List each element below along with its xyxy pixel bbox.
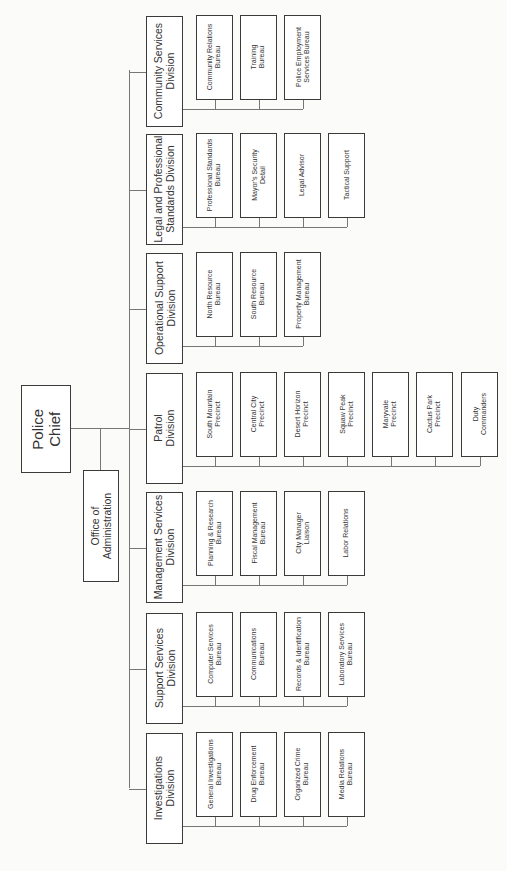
- unit-box: DutyCommanders: [461, 372, 498, 457]
- unit-box: CommunicationsBureau: [240, 612, 277, 697]
- unit-label: Cactus ParkPrecinct: [426, 395, 442, 433]
- unit-label-line2: Detail: [259, 167, 266, 185]
- unit-label-line2: Bureau: [215, 763, 222, 786]
- unit-drop-line: [303, 100, 304, 109]
- unit-connector-line: [183, 109, 303, 110]
- unit-drop-line: [259, 817, 260, 826]
- unit-label-line1: Records & Identification: [294, 618, 301, 692]
- unit-drop-line: [259, 457, 260, 466]
- unit-box: Media RelationsBureau: [328, 732, 365, 817]
- unit-drop-line: [215, 817, 216, 826]
- unit-label: MaryvalePrecinct: [382, 400, 398, 428]
- unit-label-line1: Computer Services: [206, 625, 213, 685]
- unit-drop-line: [303, 697, 304, 706]
- unit-label-line2: Bureau: [303, 763, 310, 786]
- unit-box: South ResourceBureau: [240, 252, 277, 337]
- unit-box: City ManagerLiaison: [284, 491, 321, 576]
- unit-box: Planning & ResearchBureau: [196, 491, 233, 576]
- unit-connector-line: [183, 826, 347, 827]
- unit-connector-line: [183, 585, 347, 586]
- division-label-line2: Division: [165, 290, 177, 327]
- unit-label-line1: Fiscal Management: [250, 503, 257, 564]
- unit-label-line2: Bureau: [259, 763, 266, 786]
- unit-box: Desert HorizonPrecinct: [284, 372, 321, 457]
- division-label-line1: Investigations: [152, 756, 164, 820]
- unit-label-line2: Precinct: [435, 402, 442, 427]
- division-label-line2: Division: [165, 53, 177, 90]
- division-box: Community ServicesDivision: [146, 16, 183, 127]
- unit-label-line2: Liaison: [303, 522, 310, 544]
- unit-drop-line: [215, 576, 216, 585]
- unit-label: South MountainPrecinct: [206, 390, 222, 439]
- division-box: Legal and ProfessionalStandards Division: [146, 134, 183, 245]
- office-line1: Office of: [89, 507, 101, 546]
- unit-label: South ResourceBureau: [250, 269, 266, 319]
- unit-drop-line: [303, 218, 304, 227]
- division-label: Management ServicesDivision: [152, 495, 176, 599]
- division-label: Community ServicesDivision: [152, 23, 176, 119]
- unit-drop-line: [215, 218, 216, 227]
- unit-label: Legal Advisor: [298, 154, 306, 196]
- unit-drop-line: [480, 457, 481, 466]
- division-branch-line: [129, 789, 146, 790]
- unit-box: Community RelationsBureau: [196, 15, 233, 100]
- division-label: Operational SupportDivision: [152, 262, 176, 356]
- unit-label-line1: South Mountain: [206, 390, 213, 439]
- unit-label-line2: Bureau: [259, 522, 266, 545]
- unit-connector-line: [183, 346, 303, 347]
- unit-box: Laboratory ServicesBureau: [328, 612, 365, 697]
- unit-label-line1: Labor Relations: [342, 509, 349, 558]
- chief-line1: Police: [29, 409, 46, 450]
- unit-box: Organized CrimeBureau: [284, 732, 321, 817]
- unit-label-line1: Police Employment: [294, 28, 301, 88]
- unit-label-line1: Community Relations: [206, 24, 213, 91]
- unit-box: Computer ServicesBureau: [196, 612, 233, 697]
- division-label-line2: Division: [165, 410, 177, 447]
- division-branch-line: [129, 669, 146, 670]
- unit-box: Mayor's SecurityDetail: [240, 133, 277, 218]
- unit-label-line1: Media Relations: [338, 749, 345, 799]
- unit-label-line1: Professional Standards: [206, 139, 213, 211]
- unit-box: Police EmploymentServices Bureau: [284, 15, 321, 100]
- division-label: InvestigationsDivision: [152, 756, 176, 820]
- unit-label: Drug EnforcementBureau: [250, 746, 266, 803]
- division-box: InvestigationsDivision: [146, 733, 183, 844]
- unit-label-line2: Bureau: [215, 522, 222, 545]
- unit-label-line2: Bureau: [215, 643, 222, 666]
- unit-label-line2: Bureau: [259, 283, 266, 306]
- unit-box: Records & IdentificationBureau: [284, 612, 321, 697]
- unit-box: General InvestigationsBureau: [196, 732, 233, 817]
- unit-drop-line: [259, 576, 260, 585]
- unit-label: Media RelationsBureau: [338, 749, 354, 799]
- unit-label: Community RelationsBureau: [206, 24, 222, 91]
- unit-drop-line: [347, 697, 348, 706]
- division-box: PatrolDivision: [146, 373, 183, 484]
- unit-drop-line: [303, 576, 304, 585]
- unit-label: Laboratory ServicesBureau: [338, 623, 354, 685]
- division-branch-line: [129, 72, 146, 73]
- division-branch-line: [129, 548, 146, 549]
- unit-drop-line: [303, 457, 304, 466]
- division-label-line1: Legal and Professional: [152, 136, 164, 243]
- unit-label-line2: Commanders: [480, 393, 487, 435]
- unit-label-line1: Desert Horizon: [294, 391, 301, 438]
- unit-label: Desert HorizonPrecinct: [294, 391, 310, 438]
- unit-label-line1: Cactus Park: [426, 395, 433, 433]
- unit-label-line2: Bureau: [215, 283, 222, 306]
- unit-drop-line: [259, 697, 260, 706]
- unit-drop-line: [215, 100, 216, 109]
- division-label-line1: Support Services: [152, 629, 164, 709]
- unit-label-line2: Precinct: [303, 402, 310, 427]
- unit-label: TrainingBureau: [250, 45, 266, 70]
- division-label: Legal and ProfessionalStandards Division: [152, 136, 176, 243]
- unit-label-line1: Mayor's Security: [250, 150, 257, 202]
- unit-label-line2: Precinct: [391, 402, 398, 427]
- office-line2: Administration: [101, 493, 113, 560]
- unit-box: Central CityPrecinct: [240, 372, 277, 457]
- chief-line2: Chief: [46, 411, 63, 446]
- unit-label: Property ManagementBureau: [294, 260, 310, 329]
- unit-label-line1: General Investigations: [206, 740, 213, 810]
- unit-label: Squaw PeakPrecinct: [338, 395, 354, 434]
- unit-label-line2: Services Bureau: [303, 32, 310, 83]
- unit-label: Computer ServicesBureau: [206, 625, 222, 685]
